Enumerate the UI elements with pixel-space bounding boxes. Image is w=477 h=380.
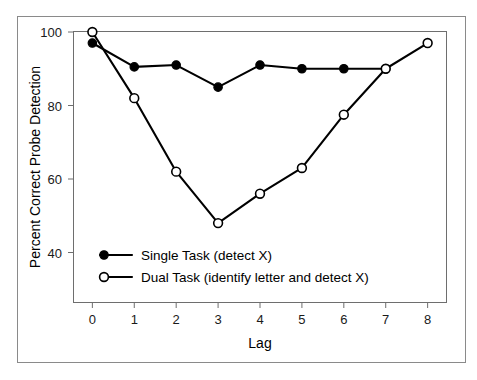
x-tick-label-3: 3 — [214, 312, 221, 327]
x-tick-label-2: 2 — [173, 312, 180, 327]
y-tick-label-100: 100 — [40, 25, 62, 40]
figure-container: 100 80 60 40 Percent Correct Probe Detec… — [0, 0, 477, 380]
legend-label-dual-task: Dual Task (identify letter and detect X) — [141, 270, 369, 285]
data-point-dual-task-lag-4 — [256, 189, 265, 198]
data-point-dual-task-lag-5 — [298, 164, 307, 173]
y-tick-label-40: 40 — [48, 246, 62, 261]
data-point-dual-task-lag-8 — [423, 39, 432, 48]
y-axis: 100 80 60 40 — [40, 25, 73, 261]
data-point-dual-task-lag-0 — [88, 28, 97, 37]
x-axis: 012345678 — [89, 303, 432, 327]
data-point-single-task-lag-1 — [130, 63, 138, 71]
x-tick-label-0: 0 — [89, 312, 96, 327]
x-tick-label-5: 5 — [298, 312, 305, 327]
x-tick-label-6: 6 — [340, 312, 347, 327]
legend-marker-single-task — [100, 251, 108, 259]
data-point-dual-task-lag-2 — [172, 167, 181, 176]
x-tick-label-8: 8 — [424, 312, 431, 327]
data-point-single-task-lag-3 — [214, 83, 222, 91]
y-axis-title: Percent Correct Probe Detection — [27, 66, 43, 268]
x-tick-label-1: 1 — [131, 312, 138, 327]
data-point-single-task-lag-2 — [172, 61, 180, 69]
data-point-single-task-lag-5 — [298, 65, 306, 73]
y-tick-label-80: 80 — [48, 99, 62, 114]
legend-label-single-task: Single Task (detect X) — [141, 248, 272, 263]
data-series-group — [88, 28, 432, 228]
y-tick-label-60: 60 — [48, 172, 62, 187]
data-point-single-task-lag-4 — [256, 61, 264, 69]
x-axis-title: Lag — [248, 335, 271, 351]
data-point-dual-task-lag-1 — [130, 94, 139, 103]
data-point-dual-task-lag-7 — [381, 64, 390, 73]
x-tick-label-4: 4 — [256, 312, 263, 327]
line-chart: 100 80 60 40 Percent Correct Probe Detec… — [0, 0, 477, 380]
chart-legend: Single Task (detect X)Dual Task (identif… — [100, 248, 369, 285]
data-point-dual-task-lag-3 — [214, 219, 223, 228]
data-point-dual-task-lag-6 — [339, 110, 348, 119]
x-tick-label-7: 7 — [382, 312, 389, 327]
data-point-single-task-lag-6 — [340, 65, 348, 73]
data-point-single-task-lag-0 — [88, 39, 96, 47]
legend-marker-dual-task — [100, 273, 109, 282]
